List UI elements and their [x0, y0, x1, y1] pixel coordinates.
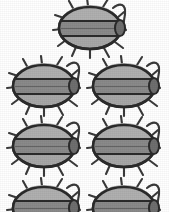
- beetle-head: [69, 138, 79, 154]
- beetle-figure: [86, 176, 169, 212]
- beetle-head: [149, 200, 159, 212]
- beetle-head: [115, 20, 125, 36]
- beetle-figure: [86, 54, 169, 118]
- beetle-figure: [6, 54, 92, 118]
- beetle-figure: [86, 114, 169, 178]
- beetle-head: [149, 138, 159, 154]
- beetle-head: [69, 78, 79, 94]
- beetle-figure: [6, 176, 92, 212]
- beetle-elytra-band: [94, 201, 154, 212]
- beetle-elytra-band: [14, 201, 74, 212]
- beetle-head: [69, 200, 79, 212]
- beetle-figure: [52, 0, 138, 60]
- illustration-canvas: [0, 0, 169, 212]
- beetle-figure: [6, 114, 92, 178]
- beetle-head: [149, 78, 159, 94]
